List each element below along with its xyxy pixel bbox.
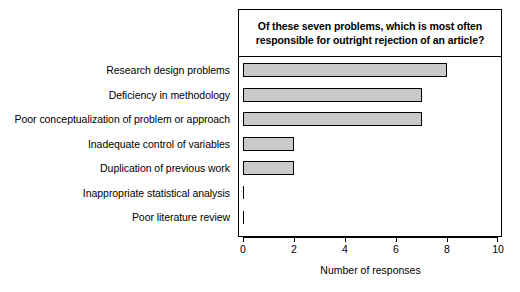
x-axis-tick — [396, 236, 397, 242]
bar — [243, 161, 294, 175]
category-label: Research design problems — [106, 64, 234, 76]
x-axis-tick-label: 0 — [240, 243, 246, 255]
bar-row — [243, 132, 498, 157]
category-label-row: Deficiency in methodology — [0, 83, 234, 108]
bar-chart-figure: Of these seven problems, which is most o… — [0, 0, 520, 292]
x-axis-tick — [497, 236, 498, 242]
chart-title-line: Of these seven problems, which is most o… — [258, 20, 482, 32]
bar — [243, 137, 294, 151]
bar-row — [243, 205, 498, 230]
category-label-row: Inadequate control of variables — [0, 132, 234, 157]
category-label-row: Research design problems — [0, 58, 234, 83]
x-axis-tick-label: 2 — [291, 243, 297, 255]
bar — [243, 186, 244, 199]
bar — [243, 112, 422, 126]
bars-container — [243, 58, 498, 230]
category-axis-labels: Research design problemsDeficiency in me… — [0, 58, 234, 230]
bar-row — [243, 83, 498, 108]
bar — [243, 88, 422, 102]
value-axis-title: Number of responses — [243, 264, 498, 276]
x-axis-tick — [243, 236, 244, 242]
category-label: Duplication of previous work — [100, 162, 234, 174]
bar-row — [243, 58, 498, 83]
category-label-row: Inappropriate statistical analysis — [0, 181, 234, 206]
x-axis-tick-label: 4 — [342, 243, 348, 255]
bar-row — [243, 156, 498, 181]
bar — [243, 211, 244, 224]
bar — [243, 63, 447, 77]
bar-row — [243, 107, 498, 132]
chart-title: Of these seven problems, which is most o… — [251, 19, 489, 47]
category-label-row: Duplication of previous work — [0, 156, 234, 181]
category-label: Inappropriate statistical analysis — [83, 187, 234, 199]
category-label-row: Poor literature review — [0, 205, 234, 230]
x-axis-tick — [447, 236, 448, 242]
x-axis-tick — [345, 236, 346, 242]
category-label: Deficiency in methodology — [109, 89, 234, 101]
x-axis-tick — [294, 236, 295, 242]
category-label: Inadequate control of variables — [88, 138, 234, 150]
x-axis-tick-label: 10 — [492, 243, 504, 255]
value-axis-line: 0246810 — [243, 236, 498, 238]
bar-row — [243, 181, 498, 206]
category-label-row: Poor conceptualization of problem or app… — [0, 107, 234, 132]
x-axis-tick-label: 8 — [444, 243, 450, 255]
chart-title-box: Of these seven problems, which is most o… — [238, 9, 502, 57]
chart-title-line: responsible for outright rejection of an… — [256, 34, 484, 46]
category-label: Poor literature review — [132, 211, 234, 223]
category-label: Poor conceptualization of problem or app… — [15, 113, 234, 125]
x-axis-tick-label: 6 — [393, 243, 399, 255]
